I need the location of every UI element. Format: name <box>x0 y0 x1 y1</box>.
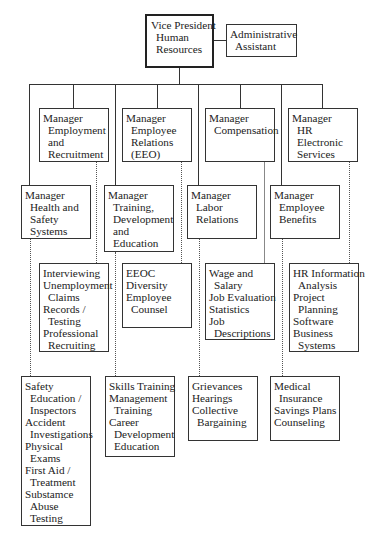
box-text-line: First Aid / <box>25 464 88 476</box>
box-text-line: Insurance <box>274 392 337 404</box>
connector-labor-functions <box>199 238 200 376</box>
box-text-line: Vice President <box>151 19 210 31</box>
box-text-line: Records / <box>43 303 106 315</box>
box-text-line: Development <box>109 428 172 440</box>
box-text-line: Job <box>209 315 272 327</box>
connector-training <box>115 84 116 185</box>
box-text-line: Savings Plans <box>274 404 337 416</box>
box-text-line: Counseling <box>274 416 337 428</box>
connector-compensation <box>240 84 241 108</box>
connector-employee-relations <box>157 84 158 108</box>
box-text-line: Manager <box>209 112 272 124</box>
manager-employee-benefits-box: ManagerEmployeeBenefits <box>270 185 340 239</box>
box-text-line: Relations <box>191 213 254 225</box>
box-text-line: Systems <box>25 225 88 237</box>
box-text-line: Project <box>293 291 356 303</box>
box-text-line: Safety <box>25 380 88 392</box>
box-text-line: Manager <box>43 112 106 124</box>
box-text-line: Software <box>293 315 356 327</box>
box-text-line: Statistics <box>209 303 272 315</box>
box-text-line: Employment <box>43 124 106 136</box>
box-text-line: Testing <box>43 315 106 327</box>
connector-health-functions <box>30 238 31 376</box>
box-text-line: Descriptions <box>209 327 272 339</box>
box-text-line: Education <box>108 237 171 249</box>
connector-health <box>29 84 30 185</box>
box-text-line: Diversity <box>126 279 189 291</box>
box-text-line: Treatment <box>25 476 88 488</box>
box-text-line: Employee <box>126 124 189 136</box>
box-text-line: Employee <box>126 291 189 303</box>
box-text-line: Labor <box>191 201 254 213</box>
box-text-line: Education / <box>25 392 88 404</box>
box-text-line: Manager <box>274 189 337 201</box>
manager-employment-box: ManagerEmploymentandRecruitment <box>39 108 109 162</box>
box-text-line: Human <box>151 31 210 43</box>
employee-relations-functions-box: EEOCDiversityEmployeeCounsel <box>122 263 192 328</box>
box-text-line: Recruitment <box>43 148 106 160</box>
administrative-assistant-box: AdministrativeAssistant <box>226 24 297 57</box>
manager-labor-relations-box: ManagerLaborRelations <box>187 185 257 239</box>
box-text-line: Exams <box>25 452 88 464</box>
box-text-line: Wage and <box>209 267 272 279</box>
box-text-line: Interviewing <box>43 267 106 279</box>
connector-hr-electronic-functions <box>349 161 350 263</box>
box-text-line: Collective <box>192 404 255 416</box>
connector-training-functions <box>115 252 116 376</box>
manager-health-safety-box: ManagerHealth andSafetySystems <box>21 185 91 239</box>
box-text-line: Services <box>292 148 355 160</box>
employee-benefits-functions-box: MedicalInsuranceSavings PlansCounseling <box>270 376 340 441</box>
box-text-line: Professional <box>43 327 106 339</box>
box-text-line: Career <box>109 416 172 428</box>
box-text-line: Abuse <box>25 500 88 512</box>
box-text-line: Unemployment <box>43 279 106 291</box>
connector-benefits <box>281 84 282 185</box>
box-text-line: Manager <box>292 112 355 124</box>
box-text-line: Manager <box>126 112 189 124</box>
box-text-line: and <box>108 225 171 237</box>
box-text-line: Skills Training <box>109 380 172 392</box>
box-text-line: Hearings <box>192 392 255 404</box>
manager-training-box: ManagerTraining,DevelopmentandEducation <box>104 185 174 252</box>
box-text-line: Recruiting <box>43 339 106 351</box>
compensation-functions-box: Wage andSalaryJob EvaluationStatisticsJo… <box>205 263 275 340</box>
box-text-line: Analysis <box>293 279 356 291</box>
box-text-line: Training <box>109 404 172 416</box>
box-text-line: Education <box>109 440 172 452</box>
box-text-line: Resources <box>151 43 210 55</box>
box-text-line: EEOC <box>126 267 189 279</box>
box-text-line: Electronic <box>292 136 355 148</box>
box-text-line: Claims <box>43 291 106 303</box>
box-text-line: HR Information <box>293 267 356 279</box>
vp-human-resources-box: Vice PresidentHumanResources <box>145 14 214 68</box>
box-text-line: Systems <box>293 339 356 351</box>
box-text-line: (EEO) <box>126 148 189 160</box>
box-text-line: Health and <box>25 201 88 213</box>
connector-employee-relations-functions <box>181 161 182 263</box>
connector-vp-down <box>179 67 180 84</box>
box-text-line: Accident <box>25 416 88 428</box>
box-text-line: Compensation <box>209 124 272 136</box>
box-text-line: Medical <box>274 380 337 392</box>
box-text-line: Assistant <box>230 40 294 52</box>
box-text-line: Administrative <box>230 28 294 40</box>
box-text-line: Development <box>108 213 171 225</box>
box-text-line: Physical <box>25 440 88 452</box>
box-text-line: Benefits <box>274 213 337 225</box>
connector-compensation-functions <box>264 161 265 263</box>
box-text-line: Management <box>109 392 172 404</box>
box-text-line: Counsel <box>126 303 189 315</box>
box-text-line: Job Evaluation <box>209 291 272 303</box>
labor-relations-functions-box: GrievancesHearingsCollectiveBargaining <box>188 376 258 441</box>
connector-hr-electronic <box>322 84 323 108</box>
connector-employment <box>73 84 74 108</box>
hr-electronic-functions-box: HR InformationAnalysisProjectPlanningSof… <box>289 263 359 352</box>
box-text-line: Manager <box>25 189 88 201</box>
connector-labor <box>198 84 199 185</box>
box-text-line: Testing <box>25 512 88 524</box>
box-text-line: Manager <box>191 189 254 201</box>
employment-functions-box: InterviewingUnemploymentClaimsRecords /T… <box>39 263 109 352</box>
box-text-line: Salary <box>209 279 272 291</box>
connector-employment-functions <box>96 161 97 263</box>
training-functions-box: Skills TrainingManagementTrainingCareerD… <box>105 376 175 457</box>
